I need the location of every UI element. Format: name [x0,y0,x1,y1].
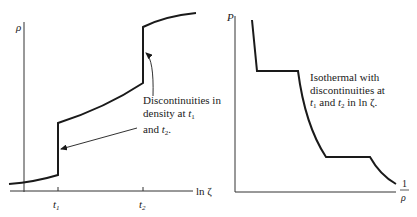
left-annotation: Discontinuities in density at t1 and t2. [143,94,221,140]
tick-label-t1: t1 [53,198,60,214]
left-y-label: ρ [16,21,21,33]
arrow-to-t2 [146,53,153,96]
arrow-to-t1 [61,128,137,149]
right-y-label: P [227,11,234,23]
left-x-label: ln ζ [196,185,212,197]
right-x-label-denominator: ρ [401,192,406,204]
tick-label-t2: t2 [139,198,146,214]
right-x-label-numerator: 1 [402,178,407,190]
right-annotation: Isothermal with discontinuities at t1 an… [310,71,385,113]
